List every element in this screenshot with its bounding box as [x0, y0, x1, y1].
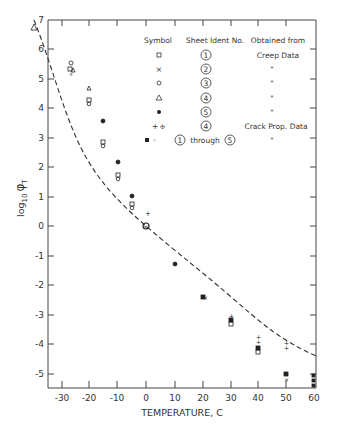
svg-text:": "	[270, 94, 273, 103]
svg-text:": "	[270, 79, 273, 88]
svg-text:2: 2	[204, 65, 209, 74]
svg-text:0: 0	[143, 393, 149, 403]
svg-text:-30: -30	[55, 393, 70, 403]
x-axis-ticks	[62, 20, 286, 388]
svg-text:5: 5	[38, 74, 44, 84]
svg-text:×: ×	[143, 223, 148, 230]
x-axis-title: TEMPERATURE, C	[140, 407, 223, 418]
svg-text:4: 4	[38, 103, 44, 113]
svg-text:×: ×	[156, 65, 162, 74]
svg-text:-1: -1	[35, 251, 44, 261]
svg-text:+: +	[152, 122, 158, 131]
svg-text:×: ×	[203, 294, 208, 301]
svg-text:⁘: ⁘	[152, 137, 157, 144]
svg-text:log10φT: log10φT	[13, 179, 29, 217]
svg-text:+: +	[145, 210, 151, 218]
legend: Symbol Sheet Ident No. Obtained from 1 C…	[144, 36, 308, 145]
chart: 7 6 5 4 3 2 1 0 -1 -2 -3 -4 -5 -30 -20 -…	[0, 0, 339, 433]
svg-text:50: 50	[280, 393, 292, 403]
svg-text:10: 10	[169, 393, 181, 403]
svg-text:+: +	[284, 344, 289, 351]
svg-text:20: 20	[197, 393, 209, 403]
plot-frame	[48, 20, 316, 388]
svg-text:2: 2	[38, 162, 44, 172]
y-tick-labels: 7 6 5 4 3 2 1 0 -1 -2 -3 -4 -5	[35, 15, 44, 379]
svg-text:3: 3	[38, 133, 44, 143]
svg-text:": "	[270, 108, 273, 117]
svg-text:40: 40	[252, 393, 264, 403]
svg-text:7: 7	[38, 15, 44, 25]
svg-text:-2: -2	[35, 280, 44, 290]
svg-text:Symbol: Symbol	[144, 36, 172, 45]
svg-text:1: 1	[38, 192, 44, 202]
svg-text:4: 4	[204, 122, 209, 131]
svg-text:Sheet Ident No.: Sheet Ident No.	[186, 36, 244, 45]
svg-text:Crack Prop. Data: Crack Prop. Data	[244, 122, 307, 131]
svg-text:Obtained from: Obtained from	[251, 36, 305, 45]
svg-text:": "	[270, 65, 273, 74]
svg-text:5: 5	[204, 108, 209, 117]
svg-text:60: 60	[308, 393, 320, 403]
svg-text:✣: ✣	[160, 123, 165, 130]
y-axis-title: log10φT	[13, 179, 29, 217]
x-tick-labels: -30 -20 -10 0 10 20 30 40 50 60	[55, 393, 320, 403]
svg-text:-3: -3	[35, 310, 44, 320]
svg-text:×: ×	[284, 376, 289, 383]
svg-text:-5: -5	[35, 369, 44, 379]
svg-text:5: 5	[228, 136, 233, 145]
svg-text:+: +	[256, 338, 261, 345]
svg-text:1: 1	[204, 51, 209, 60]
svg-text:-10: -10	[110, 393, 125, 403]
svg-text:-20: -20	[82, 393, 97, 403]
svg-text:30: 30	[225, 393, 237, 403]
svg-text:3: 3	[204, 79, 209, 88]
svg-text:0: 0	[38, 221, 44, 231]
svg-text:": "	[270, 136, 273, 145]
svg-text:4: 4	[204, 94, 209, 103]
svg-text:1: 1	[178, 136, 183, 145]
svg-text:Creep Data: Creep Data	[257, 51, 299, 60]
svg-text:through: through	[190, 136, 220, 145]
svg-text:-4: -4	[35, 339, 44, 349]
triangle-marker	[31, 24, 37, 30]
